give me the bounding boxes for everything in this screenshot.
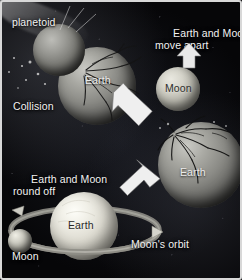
earth-label-final: Earth: [68, 219, 94, 232]
moon-label-small: Moon: [12, 250, 39, 263]
moon-formation-diagram: planetoid Earth Collision Earth and Moon…: [0, 0, 242, 280]
moons-orbit-label: Moon's orbit: [131, 238, 189, 251]
moon-orbit-front: [0, 0, 242, 280]
arrow-moon-orbit-top: [12, 206, 24, 216]
stage-round-off: Earth and Moon round off: [0, 0, 242, 280]
